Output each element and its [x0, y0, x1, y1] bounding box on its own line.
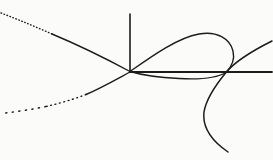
curve-upper-left-branch-dotted — [1, 13, 52, 34]
curve-figure — [0, 0, 273, 160]
curve-upper-left-branch-solid — [52, 34, 130, 72]
curve-figure-svg — [0, 0, 273, 160]
curve-right-branch — [204, 41, 272, 152]
curve-lower-left-branch-dots-far — [5, 107, 46, 114]
curve-lower-left-branch-dots-near — [46, 95, 86, 107]
curve-lower-left-branch-solid — [86, 72, 130, 95]
